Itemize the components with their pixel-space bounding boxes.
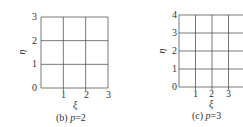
y-tick-c-0: 0 — [172, 82, 177, 92]
y-tick-b-2: 2 — [32, 36, 37, 46]
y-tick-c-4: 4 — [172, 10, 177, 20]
x-tick-b-1: 1 — [61, 90, 66, 100]
y-tick-b-1: 1 — [32, 59, 37, 69]
caption-b-prefix: (b) — [56, 112, 68, 123]
caption-b-value: =2 — [75, 112, 86, 123]
grid-c — [121, 0, 243, 127]
caption-c: (c) p=3 — [192, 110, 221, 121]
x-tick-b-3: 3 — [106, 90, 111, 100]
caption-c-prefix: (c) — [192, 110, 203, 121]
y-tick-c-2: 2 — [172, 46, 177, 56]
y-axis-label-c: η — [157, 49, 167, 54]
x-tick-c-1: 1 — [193, 89, 198, 99]
grid-b — [0, 0, 121, 127]
x-axis-label-b: ξ — [73, 100, 77, 110]
y-tick-c-1: 1 — [172, 64, 177, 74]
x-tick-c-3: 3 — [226, 89, 231, 99]
caption-b: (b) p=2 — [56, 112, 86, 123]
x-tick-b-2: 2 — [84, 90, 89, 100]
y-axis-label-b: η — [17, 50, 27, 55]
chart-c: 4 3 2 1 0 η 1 2 3 ξ (c) p=3 — [121, 0, 243, 127]
caption-c-value: =3 — [211, 110, 222, 121]
chart-b: 3 2 1 0 η 1 2 3 ξ (b) p=2 — [0, 0, 121, 127]
y-tick-c-3: 3 — [172, 28, 177, 38]
y-tick-b-0: 0 — [32, 83, 37, 93]
x-axis-label-c: ξ — [209, 99, 213, 109]
y-tick-b-3: 3 — [32, 12, 37, 22]
